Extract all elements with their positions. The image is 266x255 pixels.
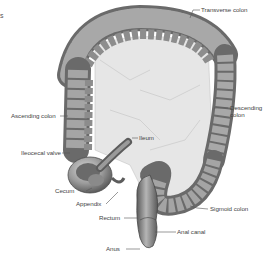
label-anal-canal: Anal canal: [177, 228, 205, 235]
label-sigmoid-colon: Sigmoid colon: [210, 205, 248, 212]
label-cecum: Cecum: [55, 187, 74, 194]
label-descending-colon-line2: colon: [230, 111, 245, 118]
label-ascending-colon: Ascending colon: [11, 112, 56, 119]
appendix-shape: [112, 178, 124, 182]
label-anus: Anus: [106, 245, 120, 252]
label-rectum: Rectum: [99, 214, 120, 221]
rectum-shape: [137, 175, 158, 248]
label-ileum: Ileum: [139, 134, 154, 141]
label-ileocecal-valve: Ileocecal valve: [21, 149, 61, 156]
label-transverse-colon: Transverse colon: [201, 6, 247, 13]
label-appendix: Appendix: [76, 200, 101, 207]
large-intestine-diagram: s: [0, 0, 266, 255]
colon-illustration: [0, 0, 266, 255]
leader-appendix: [106, 192, 118, 204]
ascending-colon-shape: [76, 70, 89, 150]
descending-colon-shape: [214, 55, 226, 160]
label-descending-colon-line1: Descending: [230, 104, 262, 111]
